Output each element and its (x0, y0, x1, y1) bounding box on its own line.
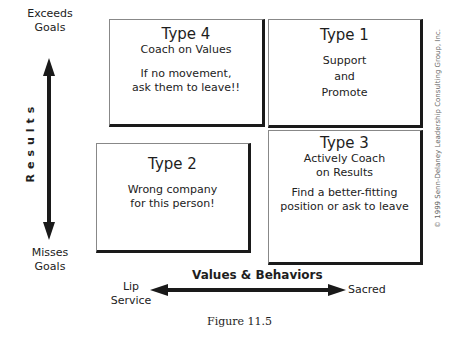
copyright-notice: © 1999 Senn-Delaney Leadership Consultin… (434, 68, 442, 228)
type3-line-4: position or ask to leave (269, 200, 420, 214)
figure-caption: Figure 11.5 (207, 315, 272, 328)
type2-line-2: for this person! (97, 197, 248, 211)
type3-line-2: on Results (269, 166, 420, 180)
y-top-line-1: Exceeds (22, 7, 78, 21)
y-axis-top-label: Exceeds Goals (22, 7, 78, 35)
type3-line-1: Actively Coach (269, 152, 420, 166)
quadrant-type4: Type 4 Coach on Values If no movement, a… (109, 19, 265, 127)
y-axis-bottom-label: Misses Goals (22, 246, 78, 274)
quadrant-type2: Type 2 Wrong company for this person! (96, 143, 251, 253)
type2-title: Type 2 (97, 155, 248, 173)
y-bottom-line-2: Goals (22, 260, 78, 274)
type4-line-4: ask them to leave!! (110, 81, 262, 95)
type4-line-1: Coach on Values (110, 43, 262, 57)
x-left-line-2: Service (108, 294, 154, 308)
type4-line-3: If no movement, (110, 67, 262, 81)
type4-title: Type 4 (110, 25, 262, 43)
y-axis-title: Results (24, 103, 37, 183)
type3-line-3: Find a better-fitting (269, 186, 420, 200)
vertical-double-arrow-icon (40, 58, 58, 240)
type1-line-1: Support (269, 53, 420, 69)
y-top-line-2: Goals (22, 21, 78, 35)
type1-line-2: and (269, 69, 420, 85)
type1-line-3: Promote (269, 85, 420, 101)
x-axis-right-label: Sacred (348, 283, 386, 297)
y-bottom-line-1: Misses (22, 246, 78, 260)
quadrant-type1: Type 1 Support and Promote (268, 19, 423, 128)
horizontal-double-arrow-icon (150, 282, 346, 298)
x-axis-left-label: Lip Service (108, 280, 154, 308)
type2-line-1: Wrong company (97, 183, 248, 197)
type1-title: Type 1 (269, 26, 420, 44)
x-left-line-1: Lip (108, 280, 154, 294)
quadrant-type3: Type 3 Actively Coach on Results Find a … (268, 130, 423, 265)
type3-title: Type 3 (269, 134, 420, 152)
type4-spacer (110, 57, 262, 67)
x-axis-title: Values & Behaviors (192, 268, 323, 282)
